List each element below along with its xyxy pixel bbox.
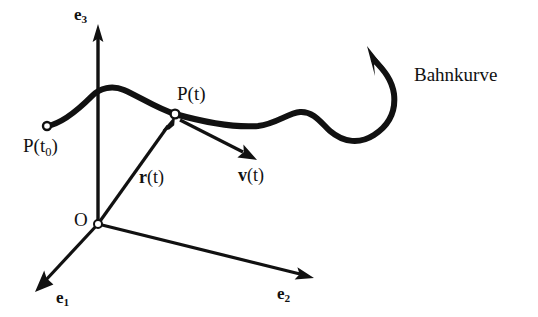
figure-canvas: e3 e1 e2 O P(t0) P(t) r(t) v(t) Bahnkurv… [0, 0, 538, 317]
start-point-marker [43, 122, 51, 130]
velocity-vector-label-symbol: v [238, 165, 247, 185]
velocity-vector-label-arg: (t) [247, 165, 264, 185]
current-point-label: P(t) [177, 84, 206, 103]
e2-axis-label-subscript: 2 [285, 292, 291, 304]
e1-axis-label-base: e [56, 288, 64, 307]
e3-axis [93, 24, 104, 224]
e1-axis-line [45, 224, 98, 281]
position-vector-label-symbol: r [139, 167, 147, 187]
position-vector-label-arg: (t) [147, 167, 164, 187]
start-point-label-tail: ) [51, 135, 57, 156]
velocity-vector-label: v(t) [238, 166, 264, 184]
e1-axis-label-subscript: 1 [64, 296, 70, 308]
e3-axis-label-base: e [74, 5, 82, 24]
origin-marker [94, 220, 102, 228]
e2-axis-label: e2 [277, 285, 290, 304]
e2-axis-label-base: e [277, 284, 285, 303]
e3-axis-label: e3 [74, 6, 87, 25]
origin-label: O [74, 210, 88, 229]
start-point-label-base: P(t [23, 135, 45, 156]
current-point-marker [171, 110, 180, 119]
position-vector-label: r(t) [139, 168, 164, 186]
start-point-label: P(t0) [23, 136, 58, 158]
e2-axis-line [98, 224, 300, 274]
e3-axis-label-subscript: 3 [82, 13, 88, 25]
e1-axis [35, 224, 98, 292]
e2-axis [98, 224, 314, 280]
e1-axis-label: e1 [56, 289, 69, 308]
trajectory-curve-label: Bahnkurve [414, 65, 497, 84]
diagram-svg [0, 0, 538, 317]
